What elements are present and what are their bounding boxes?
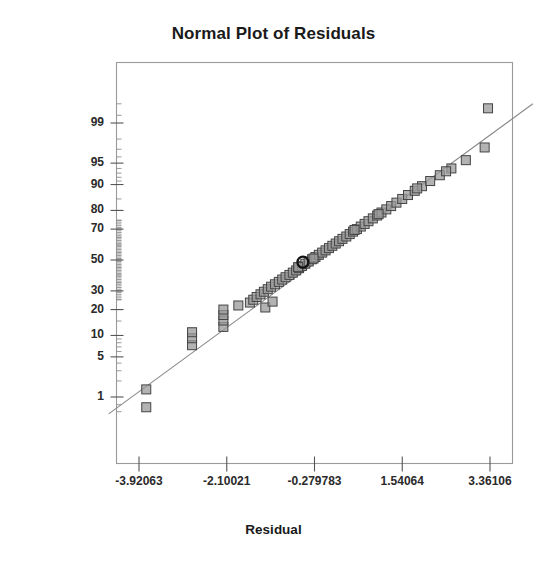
x-axis-tick-label: -0.279783 bbox=[269, 474, 361, 488]
x-axis-tick-label: 1.54064 bbox=[356, 474, 448, 488]
data-point bbox=[309, 254, 318, 263]
data-point bbox=[442, 167, 451, 176]
data-point bbox=[484, 104, 493, 113]
y-axis-tick-label: 10 bbox=[68, 327, 104, 341]
normal-probability-plot-figure: Normal Plot of Residuals Normal % Probab… bbox=[0, 0, 547, 566]
data-point bbox=[426, 177, 435, 186]
y-axis-tick-label: 95 bbox=[68, 155, 104, 169]
data-point bbox=[413, 184, 422, 193]
y-axis-tick-label: 5 bbox=[68, 349, 104, 363]
data-point bbox=[219, 305, 228, 314]
y-axis-tick-label: 90 bbox=[68, 177, 104, 191]
data-point bbox=[374, 210, 383, 219]
data-point bbox=[142, 403, 151, 412]
y-axis-tick-label: 20 bbox=[68, 302, 104, 316]
y-axis-tick-label: 70 bbox=[68, 221, 104, 235]
y-axis-tick-label: 1 bbox=[68, 389, 104, 403]
x-axis-tick-label: -2.10021 bbox=[181, 474, 273, 488]
data-point bbox=[268, 297, 277, 306]
data-point bbox=[142, 385, 151, 394]
x-axis-tick-label: 3.36106 bbox=[444, 474, 536, 488]
data-point bbox=[188, 328, 197, 337]
y-axis-tick-label: 99 bbox=[68, 115, 104, 129]
y-axis-tick-label: 80 bbox=[68, 202, 104, 216]
y-axis-tick-label: 50 bbox=[68, 252, 104, 266]
data-point bbox=[480, 143, 489, 152]
data-point bbox=[461, 156, 470, 165]
data-point bbox=[350, 225, 359, 234]
y-axis-tick-label: 30 bbox=[68, 283, 104, 297]
x-axis-tick-label: -3.92063 bbox=[93, 474, 185, 488]
data-point bbox=[234, 301, 243, 310]
